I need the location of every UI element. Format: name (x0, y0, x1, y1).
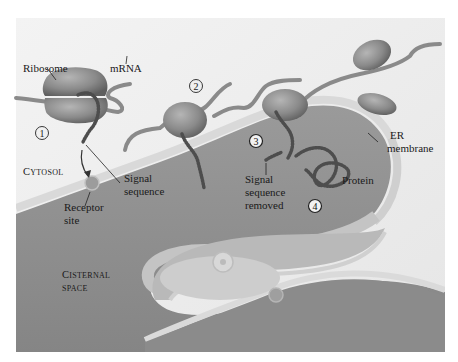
receptor-site (85, 176, 99, 190)
label-signal-removed-3: removed (245, 199, 284, 211)
label-space: SPACE (62, 284, 88, 293)
svg-text:1: 1 (40, 128, 45, 139)
label-receptor-1: Receptor (64, 201, 104, 213)
receptor-lower (269, 288, 283, 302)
label-signal-removed-2: sequence (245, 186, 285, 198)
label-receptor-2: site (64, 214, 79, 226)
ribosome-2 (163, 102, 207, 138)
step-4-marker: 4 (309, 200, 322, 213)
label-protein: Protein (342, 174, 374, 186)
label-signal-sequence-2: sequence (124, 185, 164, 197)
label-cisternal: CISTERNAL (62, 269, 110, 280)
svg-text:4: 4 (313, 201, 318, 212)
label-signal-sequence-1: Signal (124, 172, 152, 184)
svg-text:2: 2 (194, 81, 199, 92)
label-signal-removed-1: Signal (245, 173, 273, 185)
label-er-1: ER (390, 129, 405, 141)
step-3-marker: 3 (250, 135, 263, 148)
svg-text:3: 3 (254, 136, 259, 147)
er-translocation-diagram: Ribosome mRNA CYTOSOL Signal sequence Re… (0, 0, 458, 362)
label-ribosome: Ribosome (23, 62, 68, 74)
label-mrna: mRNA (110, 62, 142, 74)
label-cytosol: CYTOSOL (23, 166, 63, 177)
label-er-2: membrane (387, 142, 434, 154)
ribosome-3 (262, 89, 308, 121)
